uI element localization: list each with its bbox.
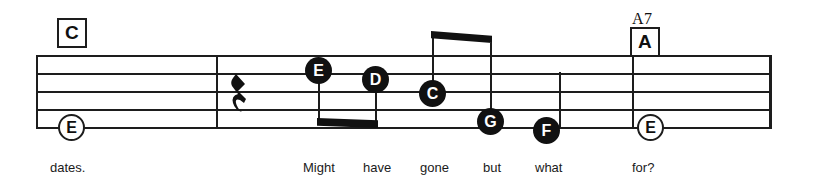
note-c-filled: C: [419, 80, 446, 107]
barline-2: [632, 55, 634, 129]
note-f-filled: F: [533, 117, 560, 144]
note-e-open-2: E: [637, 114, 664, 141]
staff-line-1: [36, 55, 771, 57]
staff-line-2: [36, 73, 771, 75]
note-e-filled: E: [305, 57, 332, 84]
note-g-filled: G: [477, 108, 504, 135]
lyric-for: for?: [632, 160, 654, 175]
beam-upper-cg: [431, 31, 492, 43]
note-d-filled: D: [362, 66, 389, 93]
chord-symbol-c: C: [57, 18, 87, 48]
note-e-open-1: E: [58, 114, 85, 141]
lyric-but: but: [483, 160, 501, 175]
barline-1: [216, 55, 218, 129]
lyric-have: have: [363, 160, 391, 175]
chord-superscript-a7: A7: [632, 10, 653, 28]
barline-start: [36, 55, 38, 129]
barline-end: [769, 55, 772, 129]
lyric-might: Might: [303, 160, 335, 175]
quarter-rest-icon: [230, 70, 252, 125]
lyric-what: what: [535, 160, 562, 175]
staff-line-3: [36, 91, 771, 93]
sheet-music-excerpt: C A7 A E E D C G F E dates. Might have g…: [0, 0, 813, 188]
chord-symbol-a: A: [630, 27, 660, 57]
lyric-dates: dates.: [50, 160, 85, 175]
lyric-gone: gone: [420, 160, 449, 175]
stem-f-up: [559, 72, 561, 128]
staff-line-4: [36, 109, 771, 111]
